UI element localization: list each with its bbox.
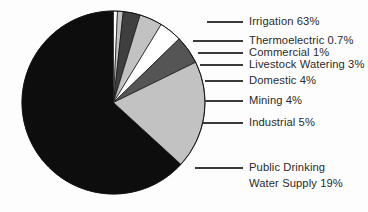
- water-use-pie-chart: Irrigation 63%Thermoelectric 0.7%Commerc…: [0, 0, 368, 212]
- pie-slices-group: Irrigation 63%Thermoelectric 0.7%Commerc…: [22, 11, 205, 194]
- callout-label-thermoelectric: Thermoelectric 0.7%: [249, 34, 354, 46]
- callout-label-public-drinking-water-line2: Water Supply 19%: [249, 177, 343, 189]
- pie-chart-figure: Irrigation 63%Thermoelectric 0.7%Commerc…: [0, 0, 368, 212]
- callout-label-public-drinking-water-line1: Public Drinking: [249, 161, 325, 173]
- callout-label-domestic: Domestic 4%: [249, 74, 316, 86]
- callout-label-industrial: Industrial 5%: [249, 116, 315, 128]
- callout-label-commercial: Commercial 1%: [249, 46, 329, 58]
- callout-label-mining: Mining 4%: [249, 94, 302, 106]
- callout-label-irrigation: Irrigation 63%: [249, 15, 319, 27]
- callout-label-livestock-watering: Livestock Watering 3%: [249, 58, 364, 70]
